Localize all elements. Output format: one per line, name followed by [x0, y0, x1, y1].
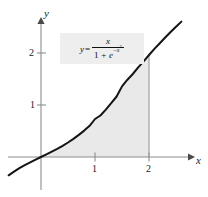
equation-denominator-exponent: −x2 — [113, 47, 122, 53]
y-axis-label: y — [44, 8, 49, 19]
equation-lhs: y — [80, 44, 84, 54]
y-tick-label-2: 2 — [29, 48, 34, 58]
shaded-area-under-curve — [41, 55, 149, 157]
x-axis-arrowhead — [188, 153, 195, 160]
equation-numerator: x — [101, 37, 115, 46]
x-tick-label-1: 1 — [92, 164, 97, 174]
equation-denominator-prefix: 1 + — [94, 50, 109, 60]
equation-exponent-power: 2 — [120, 44, 122, 49]
x-axis-label: x — [196, 155, 201, 166]
y-tick-label-1: 1 — [30, 100, 35, 110]
equation-fraction: x 1 + e−x2 — [92, 37, 124, 60]
figure-container: y x 2 1 1 2 y = x 1 + e−x2 — [0, 0, 208, 197]
x-tick-label-2: 2 — [146, 164, 151, 174]
equation-expression: y = x 1 + e−x2 — [80, 37, 124, 60]
equation-denominator: 1 + e−x2 — [92, 48, 124, 60]
equation-equals-sign: = — [85, 44, 90, 54]
equation-callout-box: y = x 1 + e−x2 — [60, 33, 144, 64]
